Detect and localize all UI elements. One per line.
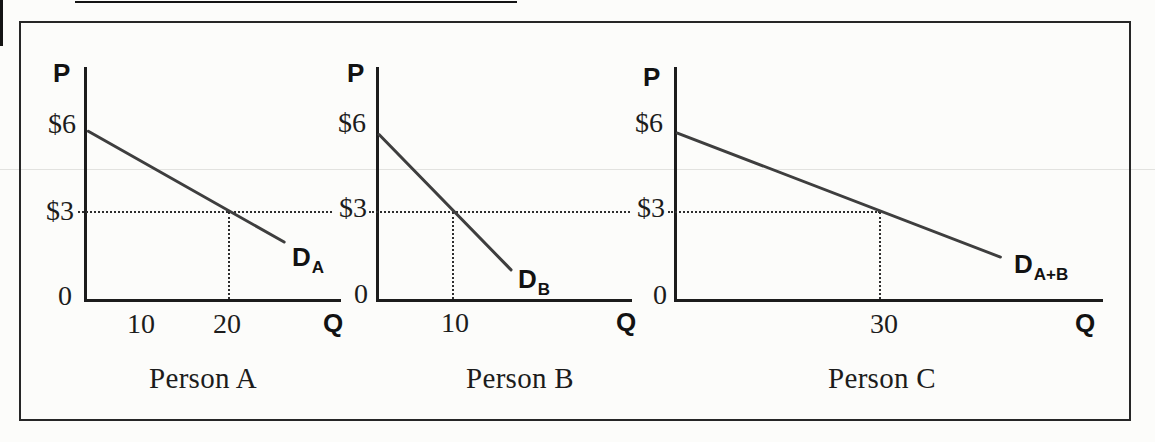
quantity-guide-dashed <box>228 212 230 299</box>
quantity-axis-label: Q <box>1075 310 1096 336</box>
price-tick-3: $3 <box>605 194 665 222</box>
x-axis <box>84 299 341 302</box>
quantity-axis-label: Q <box>616 309 637 335</box>
price-tick-3: $3 <box>14 197 74 225</box>
price-guide-dashed <box>78 211 332 213</box>
quantity-tick-10: 10 <box>425 309 485 337</box>
panel-caption-C: Person C <box>782 364 982 393</box>
quantity-tick-20: 20 <box>197 310 257 338</box>
demand-curve-label-A: DA <box>292 244 323 270</box>
y-axis <box>84 67 87 302</box>
price-axis-label: P <box>347 60 365 86</box>
x-axis <box>376 299 632 302</box>
curve-label-subscript: B <box>538 280 550 299</box>
quantity-tick-10: 10 <box>111 310 171 338</box>
demand-curve-label-A-plus-B: DA+B <box>1014 251 1067 277</box>
y-axis <box>376 67 379 302</box>
figure-demand-aggregation: P $6 $3 0 DA 10 20 Q Person A P $6 $3 0 … <box>0 0 1155 442</box>
price-axis-label: P <box>53 60 71 86</box>
curve-label-subscript: A <box>312 258 324 277</box>
quantity-tick-30: 30 <box>854 310 914 338</box>
price-axis-label: P <box>643 64 661 90</box>
origin-label: 0 <box>12 282 72 310</box>
price-guide-dashed <box>668 211 880 213</box>
price-guide-dashed <box>369 211 630 213</box>
figure-border <box>19 21 1131 421</box>
x-axis <box>674 299 1103 302</box>
scan-artifact-left-mark <box>0 0 3 46</box>
panel-caption-B: Person B <box>420 364 620 393</box>
curve-label-subscript: A+B <box>1034 265 1068 284</box>
y-axis <box>674 67 677 302</box>
price-tick-6: $6 <box>603 109 663 137</box>
quantity-guide-dashed <box>879 212 881 299</box>
quantity-axis-label: Q <box>323 310 344 336</box>
scan-artifact-top-line <box>75 1 517 3</box>
demand-curve-label-B: DB <box>518 266 549 292</box>
curve-label-main: D <box>1014 249 1033 279</box>
origin-label: 0 <box>308 280 368 308</box>
price-tick-6: $6 <box>306 109 366 137</box>
panel-caption-A: Person A <box>103 364 303 393</box>
price-tick-3: $3 <box>307 194 367 222</box>
curve-label-main: D <box>292 242 311 272</box>
price-tick-6: $6 <box>16 110 76 138</box>
origin-label: 0 <box>607 281 667 309</box>
curve-label-main: D <box>518 264 537 294</box>
quantity-guide-dashed <box>452 212 454 299</box>
